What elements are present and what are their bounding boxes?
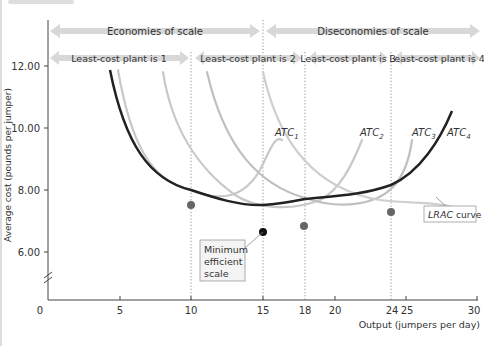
y-tick-12: 12.00 [11, 61, 40, 72]
x-tick-18: 18 [299, 305, 312, 316]
plant3-label: Least-cost plant is 3 [300, 53, 396, 64]
y-tick-6: 6.00 [18, 247, 40, 258]
economies-label: Economies of scale [107, 26, 203, 37]
plant4-label: Least-cost plant is 4 [389, 53, 484, 64]
atc3-label: ATC3 [411, 127, 436, 141]
x-tick-5: 5 [117, 305, 123, 316]
x-tick-30: 30 [468, 305, 481, 316]
tangent-point-24 [387, 208, 395, 216]
x-tick-0: 0 [37, 305, 43, 316]
x-axis-label: Output (jumpers per day) [359, 319, 480, 330]
x-tick-10: 10 [185, 305, 198, 316]
tangent-point-10 [187, 201, 195, 209]
y-tick-10: 10.00 [11, 123, 40, 134]
x-tick-20: 20 [329, 305, 342, 316]
atc2-label: ATC2 [359, 127, 384, 141]
atc1-curve [118, 70, 282, 197]
lrac-chart: Economies of scale Diseconomies of scale… [0, 0, 484, 346]
mes-label-line3: scale [204, 268, 229, 279]
atc4-label: ATC4 [446, 127, 471, 141]
y-axis-label: Average cost (pounds per jumper) [3, 88, 13, 242]
y-tick-8: 8.00 [18, 185, 40, 196]
mes-label-line2: efficient [204, 256, 243, 267]
tangent-point-18 [300, 222, 308, 230]
plant1-label: Least-cost plant is 1 [71, 53, 167, 64]
x-tick-24: 24 [386, 305, 399, 316]
atc2-curve [163, 72, 362, 207]
x-tick-25: 25 [401, 305, 414, 316]
plant2-label: Least-cost plant is 2 [200, 53, 296, 64]
diseconomies-label: Diseconomies of scale [317, 26, 429, 37]
x-tick-15: 15 [257, 305, 270, 316]
mes-label-line1: Minimum [204, 244, 248, 255]
